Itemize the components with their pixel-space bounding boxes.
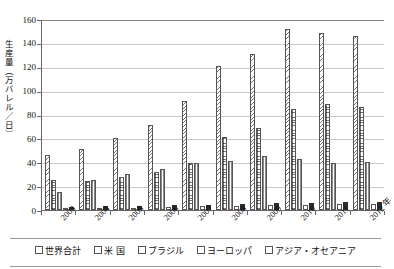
bar	[262, 156, 267, 210]
bar	[182, 101, 187, 210]
bar	[148, 125, 153, 210]
legend-swatch-icon	[138, 246, 146, 254]
plot-area	[41, 20, 384, 211]
bar-group	[76, 19, 110, 210]
y-tick-mark	[37, 68, 41, 69]
legend-label: ブラジル	[148, 244, 184, 257]
bar	[154, 172, 159, 210]
y-tick-label: 20	[11, 183, 36, 192]
chart-legend: 世界合計米 国ブラジルヨーロッパアジア・オセアニア	[0, 240, 391, 260]
bar	[216, 66, 221, 210]
y-tick-label: 0	[11, 207, 36, 216]
y-tick-label: 40	[11, 159, 36, 168]
bar	[222, 137, 227, 210]
y-tick-label: 140	[11, 39, 36, 48]
bar	[250, 54, 255, 210]
bar	[325, 104, 330, 210]
legend-label: ヨーロッパ	[207, 244, 252, 257]
y-tick-mark	[37, 163, 41, 164]
bar	[291, 109, 296, 210]
y-tick-label: 160	[11, 16, 36, 25]
y-tick-mark	[37, 116, 41, 117]
y-tick-mark	[37, 44, 41, 45]
bar	[51, 180, 56, 210]
bar-group	[316, 19, 350, 210]
bar-group	[214, 19, 248, 210]
legend-label: 世界合計	[45, 244, 81, 257]
y-tick-label: 120	[11, 63, 36, 72]
bar	[188, 163, 193, 210]
y-tick-mark	[37, 92, 41, 93]
y-tick-label: 80	[11, 111, 36, 120]
y-tick-mark	[37, 139, 41, 140]
bar-group	[351, 19, 385, 210]
legend-swatch-icon	[35, 246, 43, 254]
bar	[319, 33, 324, 210]
legend-swatch-icon	[197, 246, 205, 254]
bar	[353, 36, 358, 210]
bar-group	[282, 19, 316, 210]
legend-item[interactable]: ブラジル	[138, 244, 184, 257]
bar	[45, 155, 50, 210]
legend-divider-bottom	[10, 266, 381, 267]
bar-group	[42, 19, 76, 210]
bar	[119, 177, 124, 210]
legend-item[interactable]: 世界合計	[35, 244, 81, 257]
bar	[285, 29, 290, 210]
legend-swatch-icon	[94, 246, 102, 254]
legend-item[interactable]: 米 国	[94, 244, 124, 257]
bar	[256, 128, 261, 210]
y-tick-label: 60	[11, 135, 36, 144]
bar	[160, 169, 165, 210]
bar-group	[111, 19, 145, 210]
bar	[228, 161, 233, 210]
legend-item[interactable]: アジア・オセアニア	[265, 244, 356, 257]
legend-label: 米 国	[104, 244, 124, 257]
bar	[331, 163, 336, 210]
legend-swatch-icon	[265, 246, 273, 254]
bar	[365, 162, 370, 210]
bar-group	[145, 19, 179, 210]
legend-item[interactable]: ヨーロッパ	[197, 244, 252, 257]
bar	[194, 163, 199, 210]
bar	[297, 159, 302, 210]
bar	[85, 181, 90, 210]
y-tick-mark	[37, 187, 41, 188]
y-tick-mark	[37, 20, 41, 21]
bar	[57, 192, 62, 210]
y-tick-label: 100	[11, 87, 36, 96]
bar	[79, 149, 84, 210]
bar	[91, 180, 96, 210]
bar-group	[179, 19, 213, 210]
bar	[359, 107, 364, 210]
legend-label: アジア・オセアニア	[275, 244, 356, 257]
x-tick-mark	[41, 211, 42, 215]
bar	[125, 174, 130, 210]
bar-group	[248, 19, 282, 210]
legend-divider-top	[10, 238, 381, 239]
bar	[113, 138, 118, 210]
